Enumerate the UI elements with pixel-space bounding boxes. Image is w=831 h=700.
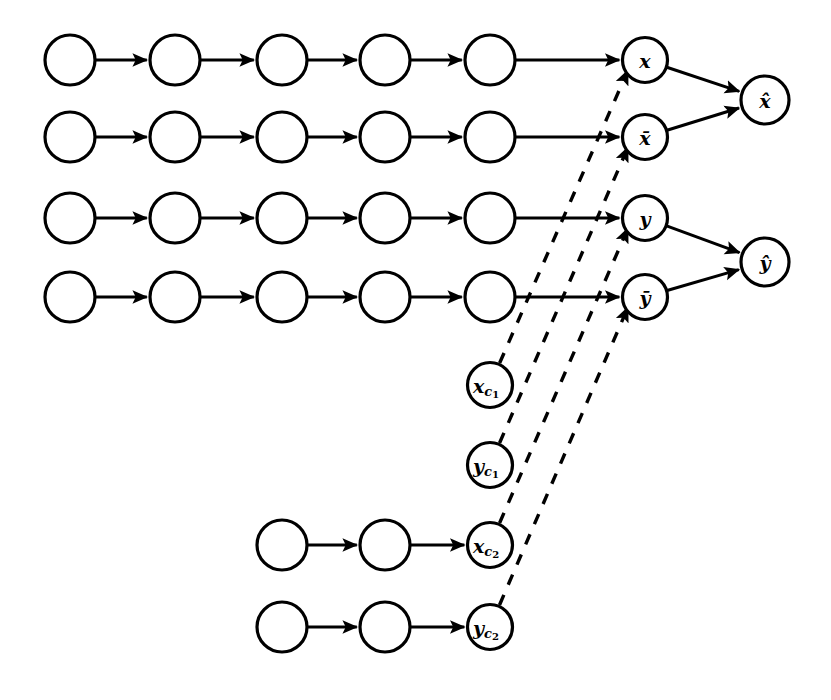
node-r3c4[interactable] xyxy=(360,193,410,243)
node-circle-r4c3 xyxy=(257,272,307,322)
node-r2c4[interactable] xyxy=(360,112,410,162)
node-circle-r3c3 xyxy=(257,193,307,243)
node-circle-r4c1 xyxy=(45,272,95,322)
dashed-edge-layer: context x c1 conditions xcontext y c1 co… xyxy=(500,70,628,605)
node-xbar[interactable]: x̄ xyxy=(623,115,668,160)
dashed-edge-xc2-to-y: context x c2 conditions y xyxy=(500,228,628,523)
node-r3c3[interactable] xyxy=(257,193,307,243)
node-r7c3[interactable] xyxy=(257,520,307,570)
node-circle-r1c3 xyxy=(257,35,307,85)
node-circle-r2c4 xyxy=(360,112,410,162)
node-label-x: x xyxy=(638,50,651,72)
node-label-yhat: ŷ xyxy=(758,252,772,274)
node-circle-r1c2 xyxy=(150,35,200,85)
node-xc2[interactable]: xc2 xyxy=(468,523,513,568)
node-label-xhat: x̂ xyxy=(758,90,771,112)
node-r7c4[interactable] xyxy=(360,520,410,570)
node-circle-r7c4 xyxy=(360,520,410,570)
node-circle-r7c3 xyxy=(257,520,307,570)
node-yc1[interactable]: yc1 xyxy=(468,443,513,488)
node-r1c4[interactable] xyxy=(360,35,410,85)
node-r2c3[interactable] xyxy=(257,112,307,162)
node-r8c4[interactable] xyxy=(360,602,410,652)
diagram-canvas: context x c1 conditions xcontext y c1 co… xyxy=(0,0,831,700)
node-circle-r2c5 xyxy=(465,112,515,162)
node-r4c2[interactable] xyxy=(150,272,200,322)
node-r2c1[interactable] xyxy=(45,112,95,162)
solid-edge-x-to-xhat xyxy=(667,67,739,91)
node-r1c2[interactable] xyxy=(150,35,200,85)
node-y[interactable]: y xyxy=(623,196,668,241)
node-label-y: y xyxy=(638,208,652,230)
node-circle-r3c2 xyxy=(150,193,200,243)
node-circle-r1c5 xyxy=(465,35,515,85)
node-r8c3[interactable] xyxy=(257,602,307,652)
node-circle-r1c4 xyxy=(360,35,410,85)
dashed-edge-yc2-to-ybar: context y c2 conditions y-bar xyxy=(500,307,628,604)
node-ybar[interactable]: ȳ xyxy=(623,275,668,320)
node-circle-r2c1 xyxy=(45,112,95,162)
node-circle-r2c2 xyxy=(150,112,200,162)
node-x[interactable]: x xyxy=(623,38,668,83)
solid-edge-xbar-to-xhat xyxy=(667,108,739,130)
node-r3c1[interactable] xyxy=(45,193,95,243)
dashed-edge-yc1-to-xbar: context y c1 conditions x-bar xyxy=(500,147,628,443)
node-circle-r4c2 xyxy=(150,272,200,322)
node-xc1[interactable]: xc1 xyxy=(468,363,513,408)
diagram-svg: context x c1 conditions xcontext y c1 co… xyxy=(0,0,831,700)
node-r1c1[interactable] xyxy=(45,35,95,85)
node-r2c2[interactable] xyxy=(150,112,200,162)
node-r1c3[interactable] xyxy=(257,35,307,85)
node-r1c5[interactable] xyxy=(465,35,515,85)
node-r2c5[interactable] xyxy=(465,112,515,162)
node-circle-r2c3 xyxy=(257,112,307,162)
node-circle-r3c4 xyxy=(360,193,410,243)
node-xhat[interactable]: x̂ xyxy=(741,76,789,124)
node-yc2[interactable]: yc2 xyxy=(468,605,513,650)
solid-edge-y-to-yhat xyxy=(667,226,740,253)
node-label-ybar: ȳ xyxy=(638,287,652,309)
node-circle-r1c1 xyxy=(45,35,95,85)
node-circle-r3c5 xyxy=(465,193,515,243)
node-circle-r4c5 xyxy=(465,272,515,322)
node-r4c4[interactable] xyxy=(360,272,410,322)
node-label-xbar: x̄ xyxy=(638,127,651,149)
node-r3c2[interactable] xyxy=(150,193,200,243)
solid-edge-ybar-to-yhat xyxy=(667,270,739,291)
node-r4c3[interactable] xyxy=(257,272,307,322)
node-circle-r3c1 xyxy=(45,193,95,243)
node-r4c1[interactable] xyxy=(45,272,95,322)
node-r4c5[interactable] xyxy=(465,272,515,322)
node-circle-r4c4 xyxy=(360,272,410,322)
node-circle-r8c3 xyxy=(257,602,307,652)
node-yhat[interactable]: ŷ xyxy=(741,238,789,286)
node-r3c5[interactable] xyxy=(465,193,515,243)
node-circle-r8c4 xyxy=(360,602,410,652)
